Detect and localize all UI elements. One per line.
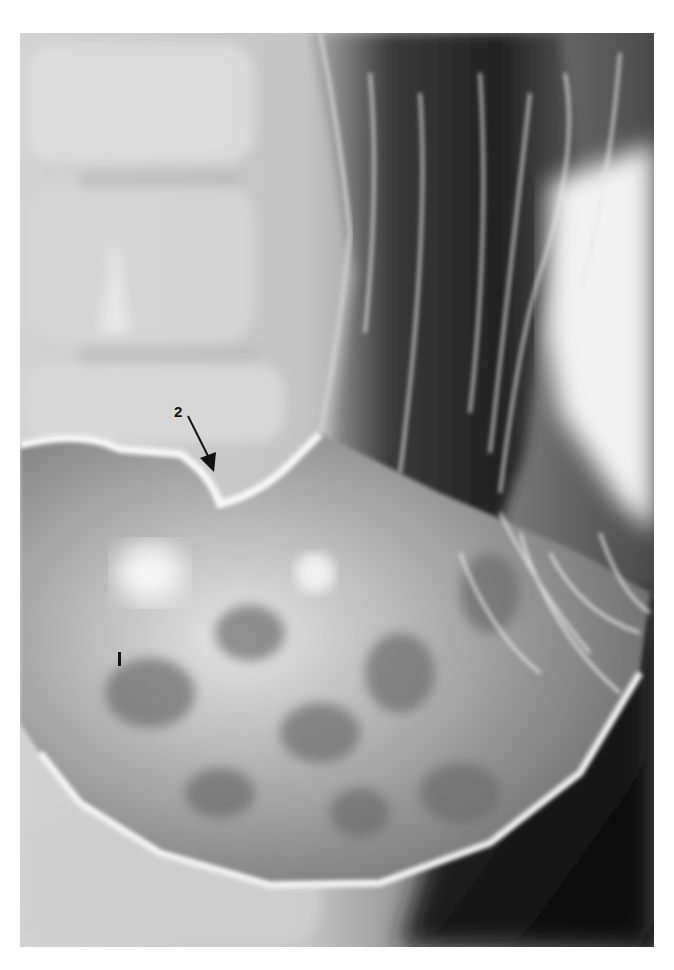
stomach-radiograph [20, 33, 654, 947]
annotation-label-1: 1 [118, 652, 121, 666]
annotation-label-2: 2 [174, 404, 182, 419]
radiograph-frame [20, 33, 654, 947]
